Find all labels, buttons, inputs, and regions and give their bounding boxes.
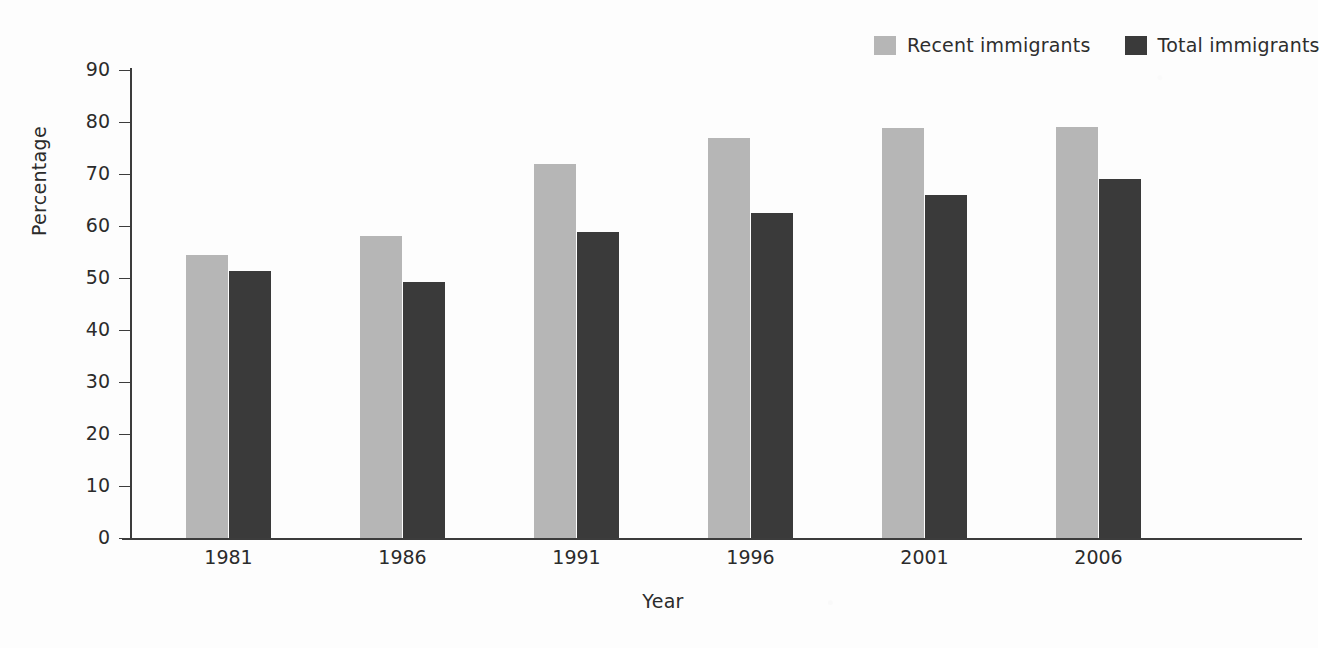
y-axis-tick-label: 0 — [98, 528, 110, 547]
x-axis-tick-label-1981: 1981 — [204, 548, 252, 567]
y-axis-tick: 40 — [119, 330, 130, 331]
bar-group-1991: 1991 — [534, 70, 619, 538]
y-axis-tick-label: 20 — [86, 424, 110, 443]
y-axis-tick-label: 90 — [86, 60, 110, 79]
x-axis-line — [122, 538, 1302, 540]
x-axis-title: Year — [0, 592, 1318, 611]
bar-group-2001: 2001 — [882, 70, 967, 538]
bar-group-1996: 1996 — [708, 70, 793, 538]
plot-area: 9080706050403020100 19811986199119962001… — [130, 70, 1290, 538]
bar-1991-recent-immigrants — [534, 164, 576, 538]
bar-group-1986: 1986 — [360, 70, 445, 538]
y-axis-tick-label: 40 — [86, 320, 110, 339]
y-axis-tick: 70 — [119, 174, 130, 175]
y-axis-tick: 30 — [119, 382, 130, 383]
bar-2001-total-immigrants — [925, 195, 967, 538]
legend-swatch-total-immigrants — [1125, 36, 1147, 55]
y-axis-tick: 10 — [119, 486, 130, 487]
legend-swatch-recent-immigrants — [874, 36, 896, 55]
bar-2006-total-immigrants — [1099, 179, 1141, 538]
bar-2006-recent-immigrants — [1056, 127, 1098, 538]
bar-1991-total-immigrants — [577, 232, 619, 538]
legend-entry-total-immigrants: Total immigrants — [1125, 36, 1320, 55]
y-axis-tick-label: 10 — [86, 476, 110, 495]
y-axis-tick-label: 30 — [86, 372, 110, 391]
y-axis-tick: 50 — [119, 278, 130, 279]
bar-1996-recent-immigrants — [708, 138, 750, 538]
bar-1986-recent-immigrants — [360, 236, 402, 538]
x-axis-tick-label-2001: 2001 — [900, 548, 948, 567]
bar-2001-recent-immigrants — [882, 128, 924, 538]
bar-1986-total-immigrants — [403, 282, 445, 538]
y-axis-tick-label: 70 — [86, 164, 110, 183]
y-axis-tick: 80 — [119, 122, 130, 123]
x-axis-tick-label-1986: 1986 — [378, 548, 426, 567]
y-axis-tick: 60 — [119, 226, 130, 227]
x-axis-title-text: Year — [642, 590, 683, 612]
y-axis-tick: 90 — [119, 70, 130, 71]
y-axis-tick-label: 80 — [86, 112, 110, 131]
y-axis-tick-label: 50 — [86, 268, 110, 287]
y-axis-line — [130, 68, 132, 540]
legend-label-total-immigrants: Total immigrants — [1158, 36, 1320, 55]
y-axis-tick: 0 — [119, 538, 130, 539]
x-axis-tick-label-2006: 2006 — [1074, 548, 1122, 567]
y-axis-title: Percentage — [30, 126, 49, 236]
y-axis-tick: 20 — [119, 434, 130, 435]
x-axis-tick-label-1991: 1991 — [552, 548, 600, 567]
x-axis-tick-label-1996: 1996 — [726, 548, 774, 567]
bar-group-1981: 1981 — [186, 70, 271, 538]
legend-label-recent-immigrants: Recent immigrants — [907, 36, 1091, 55]
bar-1981-recent-immigrants — [186, 255, 228, 538]
y-axis-tick-label: 60 — [86, 216, 110, 235]
legend-entry-recent-immigrants: Recent immigrants — [874, 36, 1091, 55]
chart-legend: Recent immigrants Total immigrants — [874, 36, 1320, 55]
bar-group-2006: 2006 — [1056, 70, 1141, 538]
bar-1981-total-immigrants — [229, 271, 271, 538]
bar-1996-total-immigrants — [751, 213, 793, 538]
